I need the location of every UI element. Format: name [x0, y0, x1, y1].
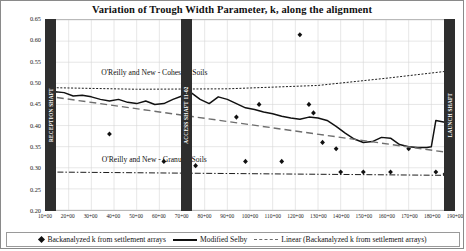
x-tick-label: 30+00: [84, 213, 98, 219]
y-tick-label: 0.50: [1, 79, 41, 86]
x-tick-label: 90+00: [220, 213, 234, 219]
scatter-point: [279, 159, 284, 164]
plot-svg: [46, 20, 454, 210]
series-1: [46, 92, 452, 148]
shaft-label: ACCESS SHAFT 11-02: [183, 86, 189, 143]
plot-area: [45, 19, 455, 211]
scatter-point: [297, 32, 302, 37]
scatter-point: [307, 102, 312, 107]
scatter-point: [334, 146, 339, 151]
x-tick-label: 40+00: [106, 213, 120, 219]
x-tick-label: 20+00: [61, 213, 75, 219]
shaft-marker: LAUNCH SHAFT: [444, 19, 455, 211]
y-tick-label: 0.60: [1, 36, 41, 43]
scatter-point: [243, 159, 248, 164]
x-tick-label: 50+00: [129, 213, 143, 219]
chart-title: Variation of Trough Width Parameter, k, …: [1, 4, 463, 15]
scatter-point: [257, 102, 262, 107]
x-tick-label: 180+00: [424, 213, 441, 219]
chart-frame: Variation of Trough Width Parameter, k, …: [0, 0, 464, 249]
scatter-point: [234, 115, 239, 120]
legend-item: Backanalyzed k from settlement arrays: [39, 235, 166, 244]
shaft-label: RECEPTION SHAFT: [48, 88, 54, 142]
x-tick-label: 120+00: [287, 213, 304, 219]
y-tick-label: 0.65: [1, 15, 41, 22]
legend-item: Modified Selby: [173, 235, 247, 244]
y-tick-label: 0.35: [1, 143, 41, 150]
legend-label: Modified Selby: [200, 235, 247, 244]
shaft-marker: ACCESS SHAFT 11-02: [181, 19, 192, 211]
y-tick-label: 0.45: [1, 100, 41, 107]
scatter-point: [320, 140, 325, 145]
diamond-marker: [38, 236, 45, 243]
y-tick-label: 0.55: [1, 58, 41, 65]
y-tick-label: 0.40: [1, 122, 41, 129]
x-tick-label: 80+00: [198, 213, 212, 219]
x-tick-label: 160+00: [378, 213, 395, 219]
legend-label: Backanalyzed k from settlement arrays: [47, 235, 166, 244]
solid-line-marker: [173, 239, 197, 241]
x-tick-label: 110+00: [265, 213, 281, 219]
scatter-point: [361, 169, 366, 174]
x-tick-label: 100+00: [242, 213, 259, 219]
x-tick-label: 190+00: [447, 213, 464, 219]
shaft-label: LAUNCH SHAFT: [447, 93, 453, 138]
x-tick-label: 140+00: [333, 213, 350, 219]
scatter-point: [311, 110, 316, 115]
scatter-point: [433, 169, 438, 174]
y-tick-label: 0.20: [1, 207, 41, 214]
shaft-marker: RECEPTION SHAFT: [45, 19, 56, 211]
legend-label: Linear (Backanalyzed k from settlement a…: [281, 235, 426, 244]
dashed-line-marker: [254, 239, 278, 240]
legend-item: Linear (Backanalyzed k from settlement a…: [254, 235, 426, 244]
y-tick-label: 0.30: [1, 164, 41, 171]
chart-legend: Backanalyzed k from settlement arraysMod…: [6, 232, 460, 247]
x-tick-label: 60+00: [152, 213, 166, 219]
y-tick-label: 0.25: [1, 186, 41, 193]
scatter-point: [388, 169, 393, 174]
x-tick-label: 130+00: [310, 213, 327, 219]
x-tick-label: 170+00: [401, 213, 418, 219]
x-tick-label: 150+00: [356, 213, 373, 219]
x-tick-label: 70+00: [175, 213, 189, 219]
scatter-point: [338, 169, 343, 174]
x-tick-label: 10+00: [38, 213, 52, 219]
scatter-point: [107, 131, 112, 136]
